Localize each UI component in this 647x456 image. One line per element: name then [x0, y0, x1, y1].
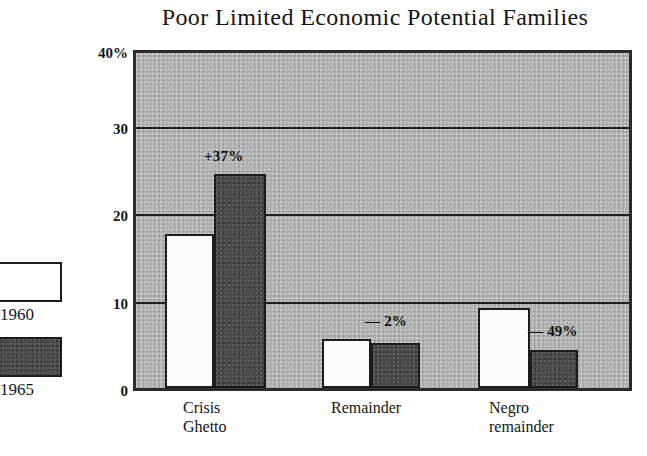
legend-label-1965: 1965 [0, 377, 110, 400]
legend-entry-1960[interactable]: 1960 [0, 262, 110, 325]
x-label-crisis-ghetto: Crisis Ghetto [183, 398, 227, 436]
bar-crisis-ghetto-1965[interactable] [214, 174, 266, 388]
annotation-crisis-ghetto: +37% [204, 148, 243, 165]
x-label-remainder: Remainder [331, 398, 401, 417]
bar-crisis-ghetto-1960[interactable] [165, 234, 214, 388]
gridline-30 [136, 127, 629, 129]
y-tick-20: 20 [68, 209, 128, 224]
legend: 1960 1965 [0, 262, 110, 412]
gridline-20 [136, 214, 629, 216]
page-title: Poor Limited Economic Potential Families [110, 4, 640, 31]
bar-negro-remainder-1960[interactable] [478, 308, 530, 388]
bar-remainder-1960[interactable] [322, 339, 371, 388]
y-tick-30: 30 [68, 122, 128, 137]
legend-swatch-1965-icon [0, 337, 62, 377]
annotation-remainder: — 2% [365, 313, 407, 330]
bar-negro-remainder-1965[interactable] [530, 350, 578, 388]
legend-entry-1965[interactable]: 1965 [0, 337, 110, 400]
plot-area: +37% — 2% — 49% [133, 50, 632, 391]
bar-remainder-1965[interactable] [371, 343, 420, 388]
legend-label-1960: 1960 [0, 302, 110, 325]
plot-inner: +37% — 2% — 49% [136, 53, 629, 388]
annotation-negro-remainder: — 49% [528, 323, 578, 340]
legend-swatch-1960-icon [0, 262, 62, 302]
y-tick-40: 40% [68, 46, 128, 61]
x-label-negro-remainder: Negro remainder [489, 398, 554, 436]
